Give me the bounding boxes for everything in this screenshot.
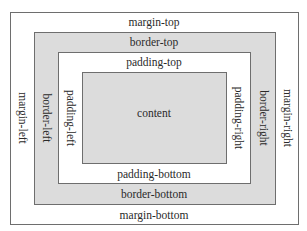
- border-right-label: border-right: [257, 90, 269, 145]
- padding-bottom-label: padding-bottom: [117, 169, 190, 181]
- margin-left-label: margin-left: [16, 92, 28, 144]
- content-label: content: [137, 108, 171, 120]
- border-bottom-label: border-bottom: [121, 189, 187, 201]
- margin-bottom-label: margin-bottom: [120, 210, 189, 222]
- padding-right-label: padding-right: [232, 87, 244, 150]
- margin-top-label: margin-top: [129, 17, 180, 29]
- border-top-label: border-top: [130, 37, 178, 49]
- border-left-label: border-left: [40, 94, 52, 143]
- margin-right-label: margin-right: [281, 89, 293, 147]
- padding-top-label: padding-top: [126, 57, 182, 69]
- padding-left-label: padding-left: [64, 90, 76, 146]
